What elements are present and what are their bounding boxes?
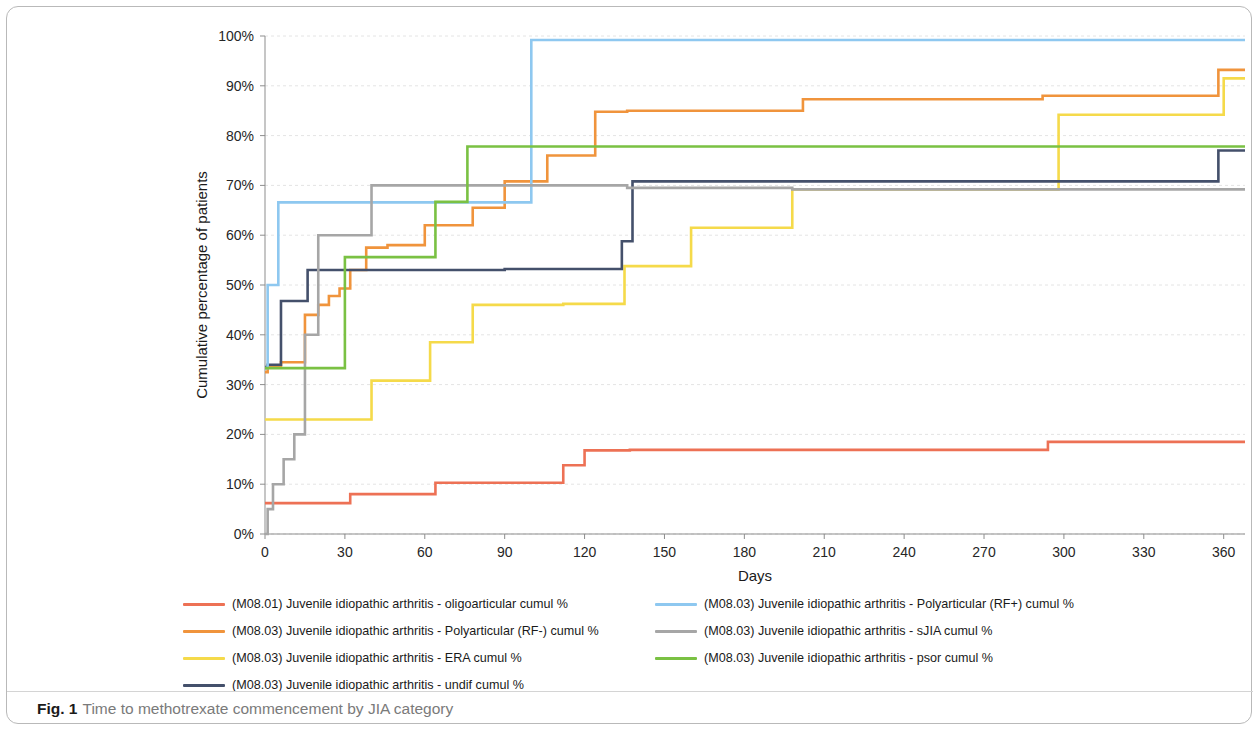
y-tick-label-80: 80% <box>226 128 254 144</box>
x-tick-label-60: 60 <box>417 544 433 560</box>
legend-item-label: (M08.03) Juvenile idiopathic arthritis -… <box>232 651 522 665</box>
y-tick-label-100: 100% <box>218 28 254 44</box>
x-tick-label-330: 330 <box>1132 544 1156 560</box>
x-tick-label-120: 120 <box>573 544 597 560</box>
x-tick-label-90: 90 <box>497 544 513 560</box>
legend-item-label: (M08.03) Juvenile idiopathic arthritis -… <box>232 678 524 692</box>
legend-item[interactable]: (M08.03) Juvenile idiopathic arthritis -… <box>655 591 1125 617</box>
y-tick-label-60: 60% <box>226 227 254 243</box>
legend-item-label: (M08.03) Juvenile idiopathic arthritis -… <box>704 624 992 638</box>
y-tick-label-20: 20% <box>226 426 254 442</box>
figure-caption-body: Time to methotrexate commencement by JIA… <box>82 700 453 717</box>
figure-caption-text: Fig. 1Time to methotrexate commencement … <box>7 700 453 718</box>
x-tick-label-300: 300 <box>1052 544 1076 560</box>
series-line-sjia <box>265 185 1245 534</box>
y-axis-title: Cumulative percentage of patients <box>193 171 210 399</box>
legend-item[interactable]: (M08.01) Juvenile idiopathic arthritis -… <box>183 591 643 617</box>
legend-item-label: (M08.03) Juvenile idiopathic arthritis -… <box>704 651 993 665</box>
y-tick-label-70: 70% <box>226 177 254 193</box>
x-axis: 0306090120150180210240270300330360 <box>261 534 1245 560</box>
legend-item-label: (M08.03) Juvenile idiopathic arthritis -… <box>704 597 1074 611</box>
y-tick-label-30: 30% <box>226 377 254 393</box>
cumulative-percentage-step-chart: 0%10%20%30%40%50%60%70%80%90%100% 030609… <box>7 7 1253 587</box>
y-tick-label-0: 0% <box>234 526 254 542</box>
series-line-era <box>265 78 1245 419</box>
series-line-polyarticular-rf <box>265 40 1245 368</box>
legend-column-right: (M08.03) Juvenile idiopathic arthritis -… <box>655 591 1125 672</box>
x-tick-label-150: 150 <box>653 544 677 560</box>
legend-color-swatch-icon <box>183 630 225 633</box>
x-tick-label-0: 0 <box>261 544 269 560</box>
x-tick-label-360: 360 <box>1212 544 1236 560</box>
x-tick-label-210: 210 <box>813 544 837 560</box>
series-lines <box>265 40 1245 534</box>
legend-color-swatch-icon <box>183 657 225 660</box>
legend-column-left: (M08.01) Juvenile idiopathic arthritis -… <box>183 591 643 699</box>
figure-card: 0%10%20%30%40%50%60%70%80%90%100% 030609… <box>6 6 1252 724</box>
chart-legend: (M08.01) Juvenile idiopathic arthritis -… <box>7 587 1253 691</box>
legend-color-swatch-icon <box>183 603 225 606</box>
x-tick-label-30: 30 <box>337 544 353 560</box>
series-line-oligoarticular <box>265 442 1245 503</box>
y-tick-label-40: 40% <box>226 327 254 343</box>
legend-item-label: (M08.01) Juvenile idiopathic arthritis -… <box>232 597 568 611</box>
chart-area: 0%10%20%30%40%50%60%70%80%90%100% 030609… <box>7 7 1253 587</box>
y-tick-label-10: 10% <box>226 476 254 492</box>
x-tick-label-180: 180 <box>733 544 757 560</box>
legend-item-label: (M08.03) Juvenile idiopathic arthritis -… <box>232 624 599 638</box>
legend-item[interactable]: (M08.03) Juvenile idiopathic arthritis -… <box>655 618 1125 644</box>
x-tick-label-240: 240 <box>892 544 916 560</box>
legend-item[interactable]: (M08.03) Juvenile idiopathic arthritis -… <box>183 645 643 671</box>
x-tick-label-270: 270 <box>972 544 996 560</box>
y-tick-label-50: 50% <box>226 277 254 293</box>
legend-item[interactable]: (M08.03) Juvenile idiopathic arthritis -… <box>183 618 643 644</box>
figure-caption: Fig. 1Time to methotrexate commencement … <box>7 691 1253 725</box>
legend-color-swatch-icon <box>655 630 697 633</box>
legend-color-swatch-icon <box>655 657 697 660</box>
y-tick-label-90: 90% <box>226 78 254 94</box>
legend-item[interactable]: (M08.03) Juvenile idiopathic arthritis -… <box>655 645 1125 671</box>
y-axis: 0%10%20%30%40%50%60%70%80%90%100% <box>218 28 265 542</box>
legend-color-swatch-icon <box>655 603 697 606</box>
x-axis-title: Days <box>738 567 772 584</box>
figure-caption-label: Fig. 1 <box>37 700 77 717</box>
legend-color-swatch-icon <box>183 684 225 687</box>
figure-body: 0%10%20%30%40%50%60%70%80%90%100% 030609… <box>7 7 1253 691</box>
